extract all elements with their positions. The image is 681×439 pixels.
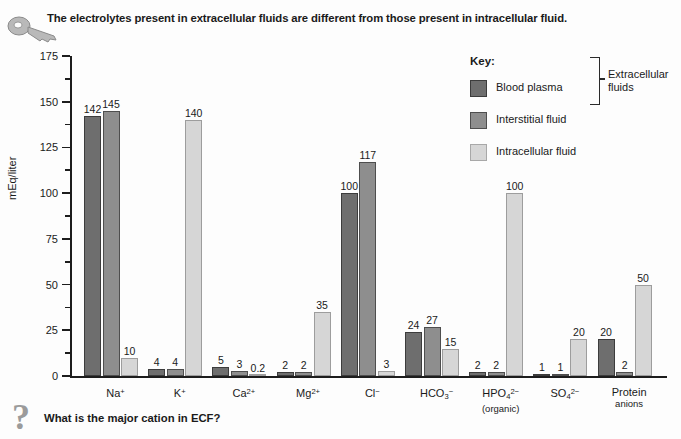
- bar: [103, 111, 120, 376]
- bar: [359, 162, 376, 376]
- bar: [295, 372, 312, 376]
- x-axis-label: Proteinanions: [586, 386, 672, 410]
- legend-swatch-intracellular-fluid: [470, 144, 487, 161]
- legend-item-interstitial-fluid: Interstitial fluid: [470, 112, 680, 129]
- bar: [185, 120, 202, 376]
- y-tick-label: 150: [24, 97, 58, 107]
- x-axis-line: [70, 376, 667, 378]
- chart-page: The electrolytes present in extracellula…: [0, 0, 681, 439]
- bar: [405, 332, 422, 376]
- legend-swatch-interstitial-fluid: [470, 112, 487, 129]
- y-tick-major: [62, 284, 70, 286]
- bar-value-label: 140: [181, 108, 207, 119]
- bar: [121, 358, 138, 376]
- extracellular-bracket-nub: [599, 78, 605, 80]
- bar-value-label: 10: [117, 346, 143, 357]
- y-tick-minor: [65, 215, 70, 217]
- legend: Key: Blood plasma Interstitial fluid Int…: [470, 55, 680, 176]
- y-axis-title: mEq/liter: [6, 157, 18, 200]
- y-tick-minor: [65, 261, 70, 263]
- chart-title: The electrolytes present in extracellula…: [47, 11, 647, 25]
- y-tick-label: 50: [24, 280, 58, 290]
- bar-value-label: 145: [98, 99, 124, 110]
- bar-group: 1001173: [341, 56, 404, 376]
- bar-group: 14214510: [84, 56, 147, 376]
- footer-question: What is the major cation in ECF?: [44, 412, 220, 424]
- bar-group: 530.2: [212, 56, 275, 376]
- legend-swatch-blood-plasma: [470, 80, 487, 97]
- bar: [148, 369, 165, 376]
- svg-text:?: ?: [12, 398, 30, 437]
- legend-label-intracellular-fluid: Intracellular fluid: [496, 145, 576, 157]
- bar: [378, 371, 395, 376]
- bar-group: 2235: [277, 56, 340, 376]
- legend-item-intracellular-fluid: Intracellular fluid: [470, 144, 680, 161]
- bar-value-label: 27: [419, 315, 445, 326]
- y-tick-major: [62, 375, 70, 377]
- cut-off-header-strip: [0, 0, 681, 9]
- question-mark-icon: ?: [8, 398, 46, 438]
- bar-value-label: 50: [630, 273, 656, 284]
- bar: [442, 349, 459, 376]
- bar: [424, 327, 441, 376]
- bar-value-label: 20: [593, 327, 619, 338]
- bar: [84, 116, 101, 376]
- bar: [506, 193, 523, 376]
- extracellular-bracket-label-line1: Extracellular: [608, 68, 669, 81]
- extracellular-bracket-label-line2: fluids: [608, 81, 669, 94]
- y-tick-minor: [65, 78, 70, 80]
- bar: [249, 374, 266, 376]
- bar: [341, 193, 358, 376]
- y-tick-label: 0: [24, 371, 58, 381]
- bar: [552, 374, 569, 376]
- y-tick-minor: [65, 124, 70, 126]
- bar-value-label: 3: [373, 359, 399, 370]
- bar-value-label: 35: [309, 300, 335, 311]
- bar-value-label: 100: [502, 181, 528, 192]
- y-tick-label: 125: [24, 142, 58, 152]
- y-tick-minor: [65, 169, 70, 171]
- y-tick-minor: [65, 307, 70, 309]
- bar: [314, 312, 331, 376]
- y-tick-minor: [65, 352, 70, 354]
- y-tick-label: 25: [24, 325, 58, 335]
- bar: [635, 285, 652, 376]
- bar: [469, 372, 486, 376]
- y-tick-major: [62, 147, 70, 149]
- bar-value-label: 15: [438, 337, 464, 348]
- y-tick-major: [62, 192, 70, 194]
- bar: [488, 372, 505, 376]
- bar: [167, 369, 184, 376]
- y-tick-major: [62, 101, 70, 103]
- y-tick-major: [62, 238, 70, 240]
- bar-group: 44140: [148, 56, 211, 376]
- y-axis-line: [70, 56, 72, 378]
- legend-label-interstitial-fluid: Interstitial fluid: [496, 113, 566, 125]
- y-tick-label: 175: [24, 51, 58, 61]
- y-tick-label: 75: [24, 234, 58, 244]
- bar-value-label: 20: [566, 327, 592, 338]
- legend-label-blood-plasma: Blood plasma: [496, 81, 563, 93]
- bar-group: 242715: [405, 56, 468, 376]
- y-tick-label: 100: [24, 188, 58, 198]
- y-tick-major: [62, 329, 70, 331]
- bar: [616, 372, 633, 376]
- legend-title: Key:: [470, 55, 680, 67]
- y-tick-major: [62, 55, 70, 57]
- extracellular-bracket: [590, 57, 600, 105]
- bar-value-label: 117: [355, 150, 381, 161]
- bar: [570, 339, 587, 376]
- bar: [533, 374, 550, 376]
- extracellular-bracket-label: Extracellular fluids: [608, 68, 669, 94]
- bar-value-label: 0.2: [245, 363, 271, 374]
- bar: [277, 372, 294, 376]
